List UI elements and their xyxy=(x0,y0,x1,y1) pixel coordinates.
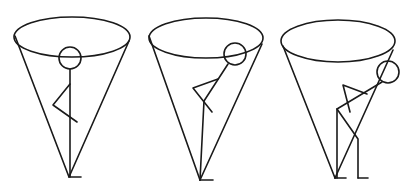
cone-rim xyxy=(14,17,130,57)
arm-line xyxy=(53,84,77,122)
cone-right-edge xyxy=(69,41,129,177)
cone-rim xyxy=(281,20,395,62)
head-circle xyxy=(377,61,399,83)
cone-posture-diagram xyxy=(0,0,413,189)
diagram-svg xyxy=(0,0,413,189)
body-line xyxy=(337,82,382,178)
panel-1-upright xyxy=(14,17,130,177)
panel-2-head-forward xyxy=(149,18,263,180)
body-line xyxy=(200,64,228,180)
cone-right-edge xyxy=(335,50,393,178)
panel-3-hunched xyxy=(281,20,399,178)
cone-left-edge xyxy=(283,46,335,178)
head-circle xyxy=(59,47,81,69)
